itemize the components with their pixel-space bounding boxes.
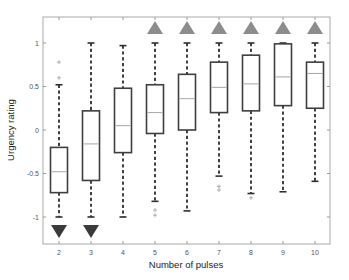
y-tick-label: 1: [35, 40, 39, 47]
y-tick-label: -1: [33, 214, 39, 221]
box-series: [51, 21, 324, 238]
iqr-box: [179, 74, 196, 130]
up-triangle-marker: [179, 21, 195, 34]
y-tick-label: -0.5: [27, 170, 39, 177]
x-tick-label: 4: [121, 249, 125, 256]
box-group-9: [275, 21, 292, 192]
iqr-box: [243, 55, 260, 111]
y-axis-title: Urgency rating: [5, 99, 16, 161]
box-group-2: [51, 60, 68, 238]
box-group-6: [179, 21, 196, 211]
box-group-5: [147, 21, 164, 217]
x-axis-title: Number of pulses: [149, 259, 224, 270]
x-tick-label: 6: [185, 249, 189, 256]
box-group-7: [211, 21, 228, 192]
down-triangle-marker: [51, 225, 67, 238]
x-tick-label: 5: [153, 249, 157, 256]
y-tick-label: 0.5: [29, 83, 39, 90]
boxplot-chart: -1-0.500.51 2345678910 Number of pulses …: [0, 0, 349, 280]
up-triangle-marker: [211, 21, 227, 34]
y-tick-label: 0: [35, 127, 39, 134]
up-triangle-marker: [243, 21, 259, 34]
iqr-box: [275, 44, 292, 106]
box-group-8: [243, 21, 260, 200]
up-triangle-marker: [275, 21, 291, 34]
x-tick-label: 3: [89, 249, 93, 256]
box-group-10: [307, 21, 324, 181]
box-group-3: [83, 43, 100, 238]
iqr-box: [307, 62, 324, 108]
x-tick-label: 8: [249, 249, 253, 256]
iqr-box: [83, 111, 100, 181]
x-tick-label: 2: [57, 249, 61, 256]
iqr-box: [115, 88, 132, 152]
iqr-box: [147, 85, 164, 134]
x-tick-label: 7: [217, 249, 221, 256]
up-triangle-marker: [147, 21, 163, 34]
x-tick-label: 10: [311, 249, 319, 256]
box-group-4: [115, 46, 132, 217]
up-triangle-marker: [307, 21, 323, 34]
down-triangle-marker: [83, 225, 99, 238]
iqr-box: [51, 147, 68, 192]
x-tick-label: 9: [281, 249, 285, 256]
